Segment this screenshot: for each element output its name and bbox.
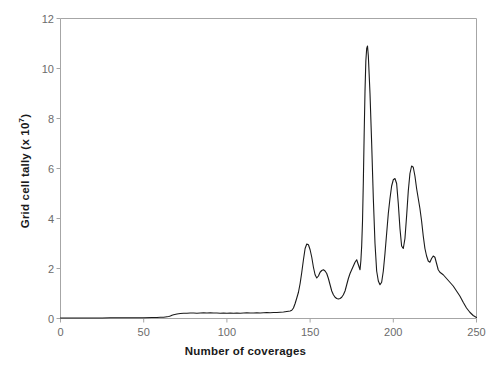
data-series-line	[61, 46, 477, 318]
x-axis-title: Number of coverages	[0, 345, 491, 357]
x-tick-label: 100	[218, 326, 236, 338]
plot-frame	[61, 19, 477, 319]
x-tick-label: 250	[467, 326, 485, 338]
y-axis-title: Grid cell tally (x 107)	[17, 114, 31, 229]
chart-plot-svg	[0, 0, 491, 372]
x-tick-label: 0	[57, 326, 63, 338]
x-tick-label: 150	[301, 326, 319, 338]
y-tick-label: 12	[26, 13, 54, 25]
y-axis-title-tail: )	[19, 114, 31, 118]
x-tick-label: 50	[138, 326, 150, 338]
y-axis-title-main: Grid cell tally (x 10	[19, 122, 31, 228]
y-tick-label: 0	[26, 313, 54, 325]
x-tick-label: 200	[384, 326, 402, 338]
y-axis-title-wrapper: Grid cell tally (x 107)	[15, 41, 33, 301]
y-axis-title-exponent: 7	[17, 118, 26, 123]
chart-figure: 050100150200250 024681012 Number of cove…	[0, 0, 491, 372]
